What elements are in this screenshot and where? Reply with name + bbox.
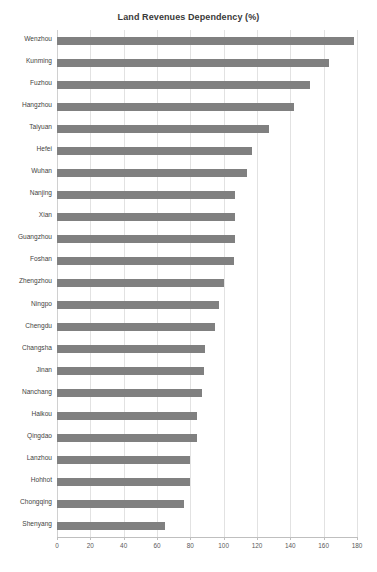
- x-tick-mark: [57, 537, 58, 540]
- bar-row: Foshan: [57, 250, 357, 272]
- x-tick-mark: [90, 537, 91, 540]
- x-tick-mark: [190, 537, 191, 540]
- bar[interactable]: [57, 235, 235, 243]
- x-tick-mark: [124, 537, 125, 540]
- bar[interactable]: [57, 103, 294, 111]
- bar[interactable]: [57, 125, 269, 133]
- bar[interactable]: [57, 412, 197, 420]
- bar-row: Changsha: [57, 339, 357, 361]
- category-label: Wuhan: [31, 166, 52, 176]
- category-label: Changsha: [22, 343, 52, 353]
- category-label: Guangzhou: [18, 232, 52, 242]
- gridline-180: [357, 30, 358, 537]
- category-label: Taiyuan: [29, 122, 52, 132]
- bar[interactable]: [57, 389, 202, 397]
- x-tick-mark: [157, 537, 158, 540]
- bar-row: Nanchang: [57, 383, 357, 405]
- x-tick-mark: [290, 537, 291, 540]
- x-tick-label: 0: [42, 542, 72, 549]
- category-label: Haikou: [31, 409, 52, 419]
- bar-row: Chengdu: [57, 317, 357, 339]
- bar-row: Qingdao: [57, 427, 357, 449]
- bar[interactable]: [57, 191, 235, 199]
- bar-chart: Land Revenues Dependency (%) WenzhouKunm…: [0, 0, 377, 572]
- bar-row: Shenyang: [57, 515, 357, 537]
- x-tick-label: 120: [242, 542, 272, 549]
- bar-row: Haikou: [57, 405, 357, 427]
- bar[interactable]: [57, 169, 247, 177]
- x-tick-label: 140: [275, 542, 305, 549]
- x-tick-label: 40: [109, 542, 139, 549]
- x-tick-mark: [224, 537, 225, 540]
- bar-row: Lanzhou: [57, 449, 357, 471]
- category-label: Hohhot: [31, 475, 52, 485]
- category-label: Qingdao: [27, 431, 52, 441]
- bar-row: Ningpo: [57, 295, 357, 317]
- category-label: Hefei: [37, 144, 52, 154]
- bar[interactable]: [57, 37, 354, 45]
- bar-row: Fuzhou: [57, 74, 357, 96]
- bar-row: Hefei: [57, 140, 357, 162]
- category-label: Jinan: [36, 365, 52, 375]
- bar[interactable]: [57, 500, 184, 508]
- bar-row: Wuhan: [57, 162, 357, 184]
- bar[interactable]: [57, 345, 205, 353]
- x-tick-label: 100: [209, 542, 239, 549]
- bar-row: Chongqing: [57, 493, 357, 515]
- category-label: Chongqing: [20, 497, 52, 507]
- bar-row: Hohhot: [57, 471, 357, 493]
- chart-title: Land Revenues Dependency (%): [0, 12, 377, 22]
- x-tick-label: 80: [175, 542, 205, 549]
- bar-row: Hangzhou: [57, 96, 357, 118]
- bar[interactable]: [57, 59, 329, 67]
- bar[interactable]: [57, 279, 224, 287]
- category-label: Xian: [39, 210, 52, 220]
- bar[interactable]: [57, 478, 190, 486]
- x-axis-line: [57, 537, 357, 538]
- category-label: Nanjing: [30, 188, 52, 198]
- bar[interactable]: [57, 522, 165, 530]
- bar-row: Xian: [57, 206, 357, 228]
- category-label: Nanchang: [22, 387, 52, 397]
- bar-row: Wenzhou: [57, 30, 357, 52]
- bar[interactable]: [57, 81, 310, 89]
- category-label: Foshan: [30, 254, 52, 264]
- category-label: Kunming: [26, 56, 52, 66]
- category-label: Chengdu: [25, 321, 52, 331]
- category-label: Wenzhou: [24, 34, 52, 44]
- bar-row: Guangzhou: [57, 228, 357, 250]
- bar[interactable]: [57, 301, 219, 309]
- bar-row: Taiyuan: [57, 118, 357, 140]
- bar[interactable]: [57, 367, 204, 375]
- category-label: Zhengzhou: [19, 276, 52, 286]
- x-tick-label: 160: [309, 542, 339, 549]
- x-tick-mark: [357, 537, 358, 540]
- category-label: Hangzhou: [22, 100, 52, 110]
- category-label: Ningpo: [31, 299, 52, 309]
- x-tick-label: 20: [75, 542, 105, 549]
- bar-row: Nanjing: [57, 184, 357, 206]
- bar[interactable]: [57, 434, 197, 442]
- bar[interactable]: [57, 257, 234, 265]
- x-tick-label: 180: [342, 542, 372, 549]
- bar-row: Jinan: [57, 361, 357, 383]
- bar[interactable]: [57, 323, 215, 331]
- category-label: Shenyang: [22, 519, 52, 529]
- bar-series: WenzhouKunmingFuzhouHangzhouTaiyuanHefei…: [57, 30, 357, 537]
- category-label: Fuzhou: [30, 78, 52, 88]
- bar[interactable]: [57, 147, 252, 155]
- category-label: Lanzhou: [27, 453, 52, 463]
- bar-row: Kunming: [57, 52, 357, 74]
- plot-area: WenzhouKunmingFuzhouHangzhouTaiyuanHefei…: [57, 30, 357, 537]
- bar[interactable]: [57, 456, 190, 464]
- x-tick-mark: [324, 537, 325, 540]
- x-tick-mark: [257, 537, 258, 540]
- bar[interactable]: [57, 213, 235, 221]
- bar-row: Zhengzhou: [57, 272, 357, 294]
- x-tick-label: 60: [142, 542, 172, 549]
